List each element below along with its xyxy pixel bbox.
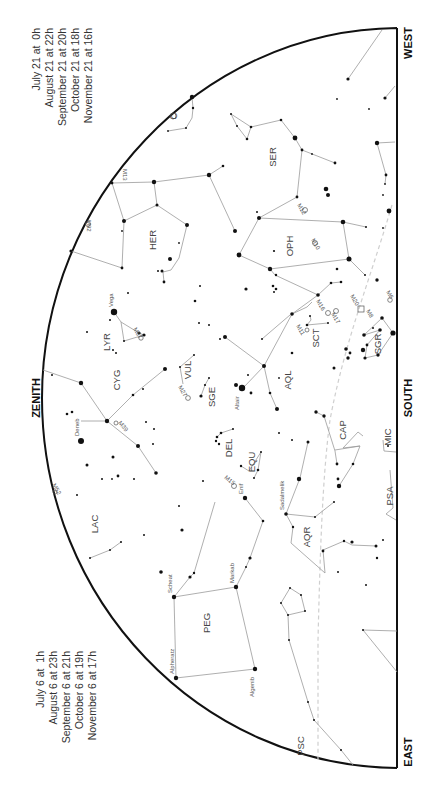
time-lower-4: November 6 at 17h — [86, 651, 98, 740]
time-lower-1: August 6 at 23h — [47, 651, 59, 725]
label-m13: M13 — [122, 169, 128, 181]
label-vega: Vega — [108, 293, 114, 307]
label-aqr: AQR — [301, 527, 312, 548]
time-lower-2: September 6 at 21h — [60, 651, 72, 743]
label-m20: M20 — [349, 294, 360, 308]
label-cap: CAP — [337, 420, 348, 440]
label-del: DEL — [223, 439, 234, 457]
label-psc: PSC — [295, 736, 306, 756]
label-peg: PEG — [201, 613, 212, 633]
cardinal-south: SOUTH — [402, 379, 414, 418]
time-upper-4: November 21 at 16h — [82, 28, 94, 123]
time-lower-3: October 6 at 19h — [73, 651, 85, 729]
label-scheat: Scheat — [167, 574, 173, 593]
label-altair: Altair — [234, 396, 240, 410]
star-labels: Vega Deneb Altair Enif Sadalmelik Markab… — [74, 293, 285, 697]
label-cyg: CYG — [111, 370, 122, 391]
label-enif: Enif — [238, 483, 244, 494]
label-alpheratz: Alpheratz — [169, 649, 175, 674]
cardinal-zenith: ZENITH — [30, 378, 42, 418]
time-upper-3: October 21 at 18h — [69, 28, 81, 112]
times-lower: July 6 at 1h August 6 at 23h September 6… — [34, 651, 98, 743]
label-aql: AQL — [282, 370, 293, 389]
cardinal-east: EAST — [402, 737, 414, 767]
ecliptic-line — [318, 205, 392, 760]
label-ser: SER — [267, 147, 278, 167]
label-algenib: Algenib — [249, 676, 255, 697]
label-crb: C — [168, 112, 179, 119]
label-m8: M8 — [365, 309, 375, 320]
time-upper-2: September 21 at 20h — [56, 28, 68, 126]
cardinal-west: WEST — [402, 27, 414, 59]
label-lac: LAC — [89, 515, 100, 534]
label-m17: M17 — [330, 312, 341, 326]
label-m16: M16 — [315, 299, 326, 313]
label-lyr: LYR — [101, 333, 112, 351]
times-upper: July 21 at 0h August 21 at 22h September… — [30, 28, 94, 126]
label-mic: MIC — [382, 428, 393, 446]
label-markab: Markab — [229, 562, 235, 583]
label-equ: EQU — [246, 452, 257, 473]
label-psa: PSA — [384, 486, 395, 506]
constellation-labels: SER HER OPH LYR CYG VUL SGE AQL SCT SGR … — [89, 112, 395, 755]
label-vul: VUL — [182, 361, 193, 379]
label-m10: M10 — [310, 238, 321, 252]
label-m12: M12 — [296, 203, 307, 217]
time-lower-0: July 6 at 1h — [34, 651, 46, 708]
label-sadalmelik: Sadalmelik — [279, 480, 285, 510]
label-sgr: SGR — [372, 334, 383, 355]
label-oph: OPH — [284, 236, 295, 257]
label-m92: M92 — [86, 220, 92, 232]
label-m11: M11 — [295, 324, 306, 337]
label-sct: SCT — [310, 328, 321, 347]
label-her: HER — [147, 230, 158, 250]
star-chart: SER HER OPH LYR CYG VUL SGE AQL SCT SGR … — [0, 0, 440, 793]
label-sge: SGE — [206, 387, 217, 407]
label-m6: M6 — [385, 290, 395, 301]
time-upper-0: July 21 at 0h — [30, 28, 42, 91]
label-deneb: Deneb — [74, 418, 80, 436]
label-m15: M15 — [223, 474, 236, 487]
time-upper-1: August 21 at 22h — [43, 28, 55, 108]
